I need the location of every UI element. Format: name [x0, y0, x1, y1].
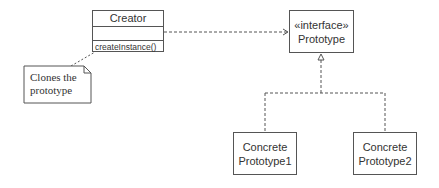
prototype-interface[interactable]: «interface» Prototype	[289, 10, 354, 53]
note-line2: prototype	[30, 84, 91, 97]
creator-attributes-compartment	[93, 27, 163, 41]
concrete2-line1: Concrete	[363, 140, 408, 154]
creator-operation: createInstance()	[93, 41, 163, 53]
realization-triangle-icon	[318, 54, 324, 60]
prototype-stereotype: «interface»	[294, 18, 348, 32]
diagram-canvas: Creator createInstance() «interface» Pro…	[0, 0, 439, 188]
concrete2-line2: Prototype2	[358, 154, 411, 168]
note-comment[interactable]: Clones the prototype	[24, 66, 91, 103]
concrete-prototype1-class[interactable]: Concrete Prototype1	[233, 132, 297, 175]
concrete1-line1: Concrete	[243, 140, 288, 154]
prototype-name: Prototype	[298, 32, 345, 46]
concrete1-line2: Prototype1	[238, 154, 291, 168]
concrete-prototype2-class[interactable]: Concrete Prototype2	[353, 132, 417, 175]
creator-class[interactable]: Creator createInstance()	[92, 10, 164, 52]
note-line1: Clones the	[30, 71, 91, 84]
creator-class-name: Creator	[93, 11, 163, 27]
note-anchor-line	[71, 52, 95, 66]
